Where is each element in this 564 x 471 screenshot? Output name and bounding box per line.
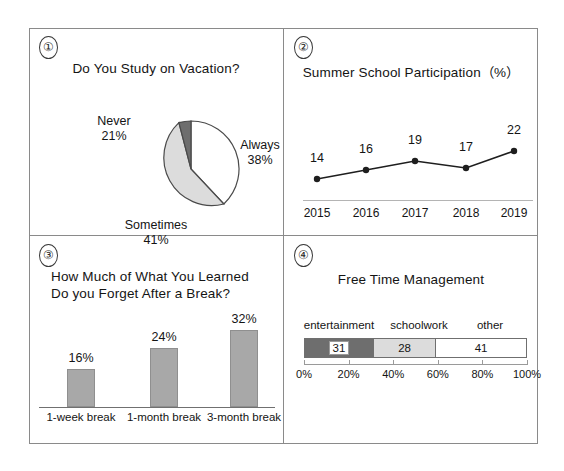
stack-label-other: other [462, 319, 518, 331]
line-series-path [317, 151, 514, 179]
panel-3-bar-chart: ③ How Much of What You Learned Do you Fo… [29, 236, 283, 444]
bar-category-3-month-break: 3-month break [203, 411, 285, 423]
stacked-bar-axis [304, 364, 527, 365]
line-point-2016 [363, 167, 369, 173]
bar-category-1-week-break: 1-week break [40, 411, 122, 423]
stack-segment-entertainment: 31 [305, 339, 373, 357]
stack-tick-label-20: 20% [329, 368, 369, 380]
pie-label-always-value: 38% [247, 153, 272, 167]
stack-value-entertainment: 31 [329, 341, 350, 355]
bar-1-week-break [67, 369, 95, 407]
stack-tick-label-40: 40% [373, 368, 413, 380]
stack-tick-0 [304, 360, 305, 365]
line-chart-x-axis [303, 200, 533, 201]
worksheet-figure-sheet: ① Do You Study on Vacation? Never 21% Al… [0, 0, 564, 471]
line-point-2017 [412, 158, 418, 164]
stack-label-entertainment: entertainment [298, 319, 380, 331]
line-xtick-2016: 2016 [341, 206, 391, 220]
stack-label-schoolwork: schoolwork [382, 319, 456, 331]
panel-4-number-marker: ④ [294, 244, 313, 267]
pie-chart-title: Do You Study on Vacation? [29, 61, 283, 76]
stack-segment-schoolwork: 28 [373, 339, 435, 357]
stack-tick-label-80: 80% [462, 368, 502, 380]
stack-tick-label-0: 0% [284, 368, 324, 380]
bar-3-month-break [230, 330, 258, 407]
line-xtick-2015: 2015 [292, 206, 342, 220]
line-xtick-2019: 2019 [489, 206, 539, 220]
panel-1-pie-chart: ① Do You Study on Vacation? Never 21% Al… [29, 28, 283, 235]
pie-label-never: Never 21% [86, 114, 142, 144]
bar-chart-baseline [39, 407, 275, 408]
stack-tick-60 [438, 360, 439, 365]
line-value-2017: 19 [400, 133, 430, 147]
stack-tick-80 [482, 360, 483, 365]
pie-chart-graphic [142, 120, 240, 218]
line-value-2015: 14 [302, 151, 332, 165]
line-value-2018: 17 [451, 140, 481, 154]
stacked-bar-title: Free Time Management [284, 272, 538, 287]
stack-tick-100 [527, 360, 528, 365]
line-xtick-2018: 2018 [441, 206, 491, 220]
pie-label-never-value: 21% [101, 129, 126, 143]
bar-value-1-week-break: 16% [58, 351, 104, 365]
panel-1-number-marker: ① [39, 36, 58, 59]
stack-tick-label-60: 60% [418, 368, 458, 380]
panel-2-line-chart: ② Summer School Participation（%） 14 16 1… [284, 28, 538, 235]
bar-value-3-month-break: 32% [221, 312, 267, 326]
bar-chart-graphic: 16% 24% 32% 1-week break 1-month break 3… [29, 236, 283, 444]
line-chart-graphic [298, 88, 534, 208]
bar-value-1-month-break: 24% [141, 330, 187, 344]
line-xtick-2017: 2017 [390, 206, 440, 220]
line-value-2016: 16 [351, 142, 381, 156]
stack-tick-40 [393, 360, 394, 365]
stack-tick-label-100: 100% [507, 368, 547, 380]
pie-label-always: Always 38% [231, 138, 289, 168]
stack-value-other: 41 [475, 342, 488, 354]
pie-label-always-name: Always [240, 138, 280, 152]
pie-label-sometimes-name: Sometimes [125, 218, 188, 232]
panel-2-number-marker: ② [294, 36, 313, 59]
stack-segment-other: 41 [435, 339, 526, 357]
pie-label-never-name: Never [97, 114, 130, 128]
bar-category-1-month-break: 1-month break [123, 411, 205, 423]
line-value-2019: 22 [499, 123, 529, 137]
line-chart-title: Summer School Participation（%） [284, 61, 538, 81]
bar-1-month-break [150, 348, 178, 407]
panel-4-stacked-bar-chart: ④ Free Time Management entertainment sch… [284, 236, 538, 444]
line-point-2015 [314, 176, 320, 182]
stacked-bar-graphic: 31 28 41 [304, 338, 527, 358]
stack-tick-20 [349, 360, 350, 365]
line-point-2018 [463, 165, 469, 171]
pie-svg [142, 120, 240, 218]
line-point-2019 [511, 148, 517, 154]
stack-value-schoolwork: 28 [398, 342, 411, 354]
